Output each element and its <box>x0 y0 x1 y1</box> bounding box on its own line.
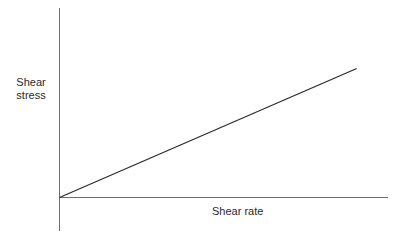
chart-canvas <box>0 0 404 245</box>
x-axis-label: Shear rate <box>212 205 263 218</box>
y-axis-label: Shear stress <box>10 76 52 102</box>
series-line-0 <box>60 69 357 198</box>
y-axis-label-line-1: Shear <box>10 76 52 89</box>
y-axis-label-line-2: stress <box>10 89 52 102</box>
series-layer <box>60 69 357 198</box>
